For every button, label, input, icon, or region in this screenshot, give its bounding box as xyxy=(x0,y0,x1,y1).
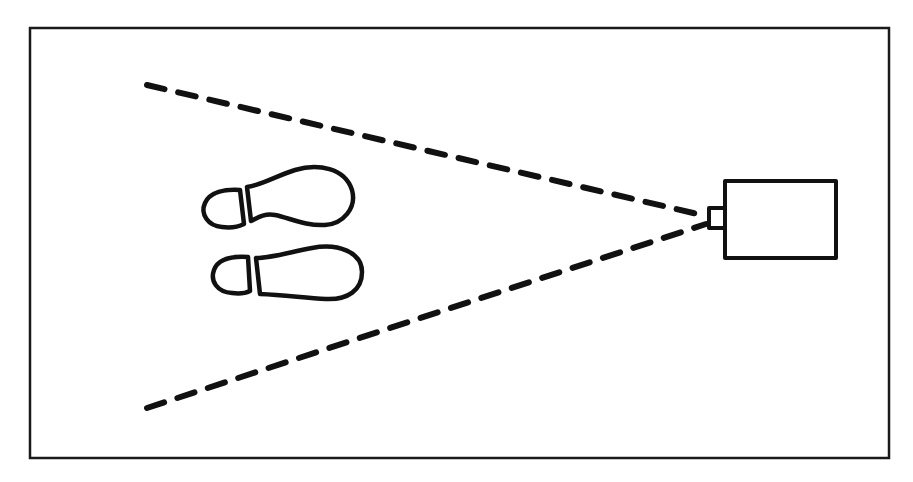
lower-footprint xyxy=(213,247,362,299)
field-of-view-cone xyxy=(147,85,706,408)
upper-footprint xyxy=(204,167,354,227)
camera-icon xyxy=(709,181,836,258)
heel-icon xyxy=(204,190,244,228)
sole-icon xyxy=(247,167,353,225)
sole-icon xyxy=(256,247,362,299)
fov-upper-ray xyxy=(147,85,706,216)
diagram-canvas xyxy=(0,0,913,482)
heel-icon xyxy=(213,257,250,294)
camera-body xyxy=(725,181,836,258)
diagram-svg xyxy=(0,0,913,482)
footprints-icon xyxy=(204,167,362,299)
camera-lens xyxy=(709,208,725,228)
fov-lower-ray xyxy=(147,224,706,408)
